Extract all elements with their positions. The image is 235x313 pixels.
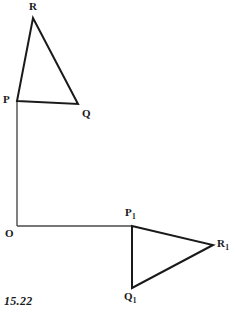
vertex-label-r: R [29,1,37,12]
geometry-diagram [0,0,235,313]
geometry-figure: R P Q O P1 R1 Q1 15.22 [0,0,235,313]
subscript-1: 1 [132,212,136,221]
figure-caption: 15.22 [4,294,33,309]
vertex-label-p: P [3,94,10,105]
vertex-label-p1: P1 [125,207,136,218]
vertex-label-q1: Q1 [124,291,137,302]
subscript-1: 1 [225,243,229,252]
triangle-pqr [17,18,78,104]
vertex-label-r1: R1 [217,238,229,249]
vertex-label-o: O [5,228,14,239]
subscript-1: 1 [133,296,137,305]
vertex-label-q: Q [82,108,91,119]
triangle-p1q1r1 [132,226,213,288]
